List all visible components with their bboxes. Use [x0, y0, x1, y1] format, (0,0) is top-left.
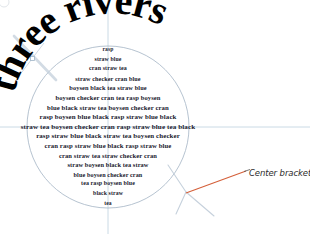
- poem-line: tea: [0, 201, 263, 207]
- poem-line: tea rasp boysen blue: [0, 181, 263, 187]
- poem-line: straw checker cran blue: [0, 76, 263, 82]
- poem-line: black straw: [0, 191, 263, 197]
- poem-line: blue boysen checker cran: [0, 172, 263, 178]
- poem-line: cran straw tea straw checker cran: [0, 153, 263, 160]
- poem-line: straw tea boysen checker cran rasp straw…: [0, 124, 263, 131]
- corner-circle-fragment: [0, 0, 9, 7]
- poem-line: cran rasp straw blue black rasp straw bl…: [0, 143, 263, 150]
- poem-line: straw blue: [0, 57, 263, 63]
- poem-line: boysen black tea straw blue: [0, 85, 263, 91]
- poem-line: blue black straw tea boysen checker cran: [0, 105, 263, 112]
- poem-line: straw boysen black tea straw: [0, 162, 263, 168]
- poem-line: boysen checker cran tea rasp boysen: [0, 95, 263, 102]
- poem-line: rasp straw blue black straw tea boysen c…: [0, 133, 263, 140]
- poem-line: rasp boysen blue black rasp straw blue b…: [0, 114, 263, 121]
- center-bracket-callout-label: Center bracket: [249, 168, 310, 178]
- poem-line: rasp: [0, 47, 263, 53]
- poem-line: cran straw tea: [0, 66, 263, 72]
